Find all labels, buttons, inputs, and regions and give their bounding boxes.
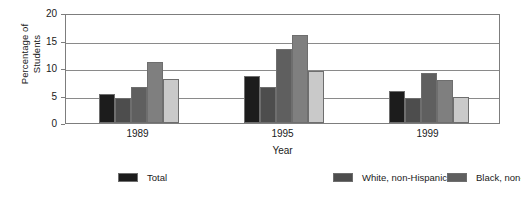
bar bbox=[389, 91, 405, 123]
y-tick-label: 10 bbox=[0, 64, 57, 74]
bar bbox=[163, 79, 179, 123]
bar-group-1989 bbox=[99, 15, 179, 123]
bar bbox=[437, 80, 453, 123]
chart-legend: TotalWhite, non-HispanicBlack, non-Hispa… bbox=[118, 169, 448, 185]
legend-item: Total bbox=[118, 169, 333, 185]
bar bbox=[147, 62, 163, 123]
bar bbox=[453, 97, 469, 123]
x-axis-title: Year bbox=[65, 145, 500, 156]
bar-group-1999 bbox=[389, 15, 469, 123]
bar bbox=[115, 98, 131, 123]
x-tick-label: 1999 bbox=[383, 128, 473, 140]
bar bbox=[99, 94, 115, 123]
legend-label: Total bbox=[147, 172, 167, 183]
legend-item: White, non-Hispanic bbox=[333, 169, 447, 185]
bar bbox=[308, 71, 324, 123]
plot-area bbox=[65, 14, 500, 124]
legend-label: White, non-Hispanic bbox=[362, 172, 447, 183]
bar bbox=[292, 35, 308, 123]
bar bbox=[260, 87, 276, 123]
legend-swatch-icon bbox=[447, 173, 467, 182]
legend-swatch-icon bbox=[118, 173, 138, 182]
bar-chart-figure: Percentage of Students 05101520 19891995… bbox=[0, 0, 521, 219]
x-tick-label: 1989 bbox=[93, 128, 183, 140]
bar-group-1995 bbox=[244, 15, 324, 123]
bar bbox=[244, 76, 260, 123]
y-tick-label: 20 bbox=[0, 9, 57, 19]
bar bbox=[421, 73, 437, 123]
bar bbox=[405, 98, 421, 123]
bar bbox=[131, 87, 147, 123]
legend-item: Black, non-Hispanic bbox=[447, 169, 521, 185]
y-tick-label: 15 bbox=[0, 37, 57, 47]
y-tick-label: 0 bbox=[0, 119, 57, 129]
legend-swatch-icon bbox=[333, 173, 353, 182]
y-tick-mark bbox=[61, 124, 65, 125]
y-tick-label: 5 bbox=[0, 92, 57, 102]
bar bbox=[276, 49, 292, 123]
x-tick-label: 1995 bbox=[238, 128, 328, 140]
legend-label: Black, non-Hispanic bbox=[476, 172, 521, 183]
